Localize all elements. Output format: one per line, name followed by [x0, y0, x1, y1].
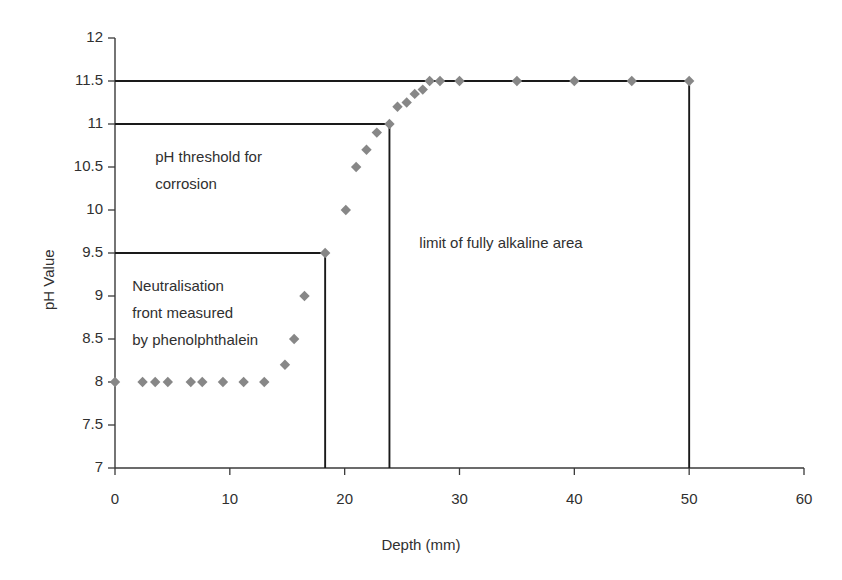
data-point-marker	[372, 127, 382, 137]
data-point-marker	[569, 76, 579, 86]
annotation-line: Neutralisation	[132, 272, 258, 299]
data-point-marker	[454, 76, 464, 86]
y-tick-label: 7	[47, 458, 103, 475]
data-point-marker	[150, 377, 160, 387]
annotation-line: corrosion	[155, 170, 262, 197]
data-point-marker	[351, 162, 361, 172]
data-point-marker	[238, 377, 248, 387]
annotation-ph-threshold: pH threshold forcorrosion	[155, 143, 262, 197]
data-point-marker	[320, 248, 330, 258]
data-point-marker	[384, 119, 394, 129]
x-tick-label: 30	[430, 490, 490, 507]
data-point-marker	[424, 76, 434, 86]
data-point-marker	[299, 291, 309, 301]
data-point-marker	[401, 97, 411, 107]
x-tick-label: 40	[544, 490, 604, 507]
y-tick-label: 10	[47, 200, 103, 217]
x-tick-label: 20	[315, 490, 375, 507]
data-point-marker	[392, 102, 402, 112]
data-point-marker	[110, 377, 120, 387]
data-point-marker	[627, 76, 637, 86]
data-point-marker	[512, 76, 522, 86]
data-point-marker	[361, 145, 371, 155]
data-point-marker	[280, 360, 290, 370]
data-point-marker	[289, 334, 299, 344]
data-point-marker	[163, 377, 173, 387]
data-point-marker	[197, 377, 207, 387]
data-point-marker	[218, 377, 228, 387]
annotation-neutralisation-front: Neutralisationfront measuredby phenolpht…	[132, 272, 258, 353]
data-point-marker	[341, 205, 351, 215]
annotation-line: by phenolphthalein	[132, 326, 258, 353]
x-tick-label: 10	[200, 490, 260, 507]
annotation-alkaline-limit: limit of fully alkaline area	[419, 229, 582, 256]
y-axis-title: pH Value	[40, 249, 57, 310]
data-point-marker	[259, 377, 269, 387]
y-tick-label: 11.5	[47, 71, 103, 88]
chart-figure: 77.588.599.51010.51111.5120102030405060 …	[0, 0, 842, 580]
annotation-line: limit of fully alkaline area	[419, 229, 582, 256]
x-tick-label: 60	[774, 490, 834, 507]
y-tick-label: 11	[47, 114, 103, 131]
y-tick-label: 12	[47, 28, 103, 45]
data-point-marker	[435, 76, 445, 86]
annotation-line: pH threshold for	[155, 143, 262, 170]
data-point-marker	[684, 76, 694, 86]
y-tick-label: 8.5	[47, 329, 103, 346]
y-tick-label: 8	[47, 372, 103, 389]
axes-group	[108, 38, 804, 475]
y-tick-label: 7.5	[47, 415, 103, 432]
x-tick-label: 50	[659, 490, 719, 507]
x-axis-title: Depth (mm)	[0, 536, 842, 553]
annotation-line: front measured	[132, 299, 258, 326]
data-point-marker	[186, 377, 196, 387]
y-tick-label: 10.5	[47, 157, 103, 174]
x-tick-label: 0	[85, 490, 145, 507]
data-point-marker	[137, 377, 147, 387]
